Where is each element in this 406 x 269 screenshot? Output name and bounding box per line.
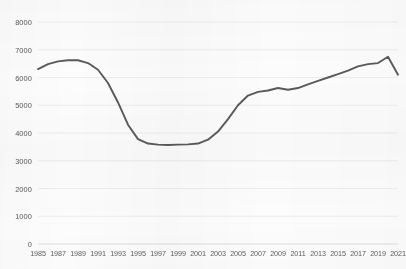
x-axis-tick-label: 1995 xyxy=(130,249,146,258)
line-chart: 010002000300040005000600070008000 198519… xyxy=(0,0,406,269)
y-axis-tick-label: 2000 xyxy=(0,184,32,193)
x-axis-tick-label: 1997 xyxy=(150,249,166,258)
x-axis-tick-label: 2011 xyxy=(290,249,305,258)
chart-plot-area xyxy=(0,0,406,269)
x-axis-tick-label: 1999 xyxy=(170,249,186,258)
x-axis-tick-label: 1993 xyxy=(110,249,126,258)
x-axis-tick-label: 2019 xyxy=(370,249,386,258)
data-series-line xyxy=(38,57,398,145)
x-axis-tick-label: 1991 xyxy=(90,249,106,258)
y-axis-tick-label: 3000 xyxy=(0,156,32,165)
x-axis-tick-label: 1987 xyxy=(50,249,66,258)
x-axis-tick-label: 2001 xyxy=(190,249,206,258)
x-axis-tick-label: 2017 xyxy=(350,249,366,258)
y-axis-tick-label: 4000 xyxy=(0,129,32,138)
y-axis-tick-label: 8000 xyxy=(0,18,32,27)
y-axis-tick-label: 0 xyxy=(0,240,32,249)
x-axis-tick-label: 2015 xyxy=(330,249,346,258)
x-axis-tick-label: 2021 xyxy=(390,249,406,258)
y-axis-tick-label: 5000 xyxy=(0,101,32,110)
x-axis-tick-label: 2003 xyxy=(210,249,226,258)
x-axis-tick-label: 2007 xyxy=(250,249,266,258)
x-axis-tick-label: 2009 xyxy=(270,249,286,258)
y-axis-tick-label: 6000 xyxy=(0,73,32,82)
x-axis-tick-label: 2013 xyxy=(310,249,326,258)
x-axis-tick-label: 2005 xyxy=(230,249,246,258)
x-axis-tick-label: 1989 xyxy=(70,249,86,258)
x-axis-tick-label: 1985 xyxy=(30,249,46,258)
y-axis-tick-label: 1000 xyxy=(0,212,32,221)
y-axis-tick-label: 7000 xyxy=(0,45,32,54)
